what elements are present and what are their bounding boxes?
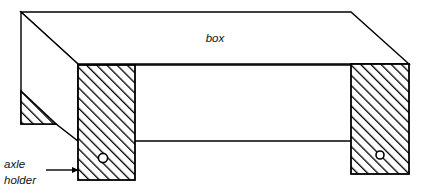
axle-holder-label-line2: holder (4, 174, 37, 186)
box-label: box (206, 32, 226, 44)
left-axle-hole (98, 153, 107, 162)
axle-holder-label-line1: axle (4, 158, 25, 170)
technical-drawing-canvas: box axle holder (0, 0, 428, 194)
left-axle-holder (78, 65, 135, 180)
box-axle-holder-diagram: box axle holder (0, 0, 428, 194)
right-axle-hole (376, 151, 384, 159)
